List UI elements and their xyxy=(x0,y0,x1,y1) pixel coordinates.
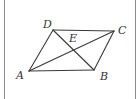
vertex-label-e: E xyxy=(69,33,77,44)
parallelogram-drawing xyxy=(0,0,140,99)
vertex-label-b: B xyxy=(100,71,108,82)
vertex-label-a: A xyxy=(16,70,24,81)
vertex-label-d: D xyxy=(43,19,52,30)
vertex-label-c: C xyxy=(118,25,126,36)
side-BC xyxy=(94,31,114,70)
geometry-figure: D C E A B xyxy=(0,0,140,99)
side-AB xyxy=(29,70,94,71)
side-CD xyxy=(53,30,114,31)
